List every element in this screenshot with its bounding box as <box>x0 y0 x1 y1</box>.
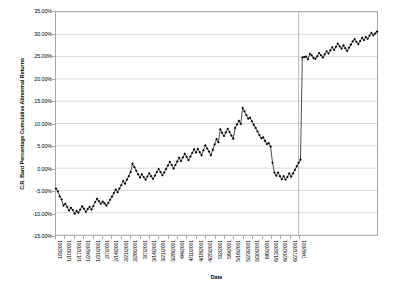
data-point-marker <box>271 161 274 164</box>
data-point-marker <box>127 175 130 178</box>
x-axis-tick-label: 4/25/2001 <box>207 240 213 262</box>
x-axis-tick-label: 3/28/2001 <box>170 240 176 262</box>
x-axis-tick-labels: 1/3/20011/10/20011/17/20011/24/20011/31/… <box>55 240 378 272</box>
series-markers <box>55 30 379 215</box>
data-point-marker <box>202 149 205 152</box>
x-axis-tick-label: 2/7/2001 <box>104 240 110 259</box>
x-axis-tick-mark <box>233 236 234 239</box>
x-axis-tick-mark <box>168 236 169 239</box>
data-point-marker <box>189 155 192 158</box>
data-point-marker <box>224 131 227 134</box>
data-point-marker <box>172 167 175 170</box>
y-axis-tick-label: -15.00% <box>0 233 52 239</box>
data-point-marker <box>176 160 179 163</box>
data-point-marker <box>245 114 248 117</box>
x-axis-tick-label: 5/30/2001 <box>254 240 260 262</box>
x-axis-tick-mark <box>130 236 131 239</box>
x-axis-tick-mark <box>102 236 103 239</box>
y-axis-tick-label: 30.00% <box>0 31 52 37</box>
data-point-marker <box>129 171 132 174</box>
plot-area <box>55 11 378 236</box>
x-axis-tick-mark <box>215 236 216 239</box>
data-series-line <box>56 12 377 235</box>
x-axis-tick-mark <box>140 236 141 239</box>
x-axis-tick-label: 6/6/2001 <box>264 240 270 259</box>
x-axis-tick-label: 5/23/2001 <box>245 240 251 262</box>
x-axis-tick-label: 4/18/2001 <box>198 240 204 262</box>
x-axis-tick-mark <box>280 236 281 239</box>
y-axis-tick-label: 25.00% <box>0 53 52 59</box>
x-axis-tick-label: 1/31/2001 <box>95 240 101 262</box>
data-point-marker <box>126 178 129 181</box>
x-axis-tick-mark <box>55 236 56 239</box>
x-axis-tick-label: 2/14/2001 <box>113 240 119 262</box>
x-axis-tick-mark <box>111 236 112 239</box>
y-axis-tick-label: 10.00% <box>0 121 52 127</box>
data-point-marker <box>92 205 95 208</box>
data-point-marker <box>113 192 116 195</box>
y-axis-tick-label: 0.00% <box>0 166 52 172</box>
data-point-marker <box>213 143 216 146</box>
data-point-marker <box>241 107 244 110</box>
x-axis-tick-mark <box>93 236 94 239</box>
x-axis-tick-mark <box>83 236 84 239</box>
data-point-marker <box>210 154 213 157</box>
data-point-marker <box>295 165 298 168</box>
x-axis-tick-label: 4/11/2001 <box>188 240 194 261</box>
x-axis-tick-label: 3/21/2001 <box>160 240 166 262</box>
x-axis-tick-label: 6/20/2001 <box>282 240 288 262</box>
data-point-marker <box>303 56 306 59</box>
y-axis-tick-label: -5.00% <box>0 188 52 194</box>
data-point-marker <box>167 164 170 167</box>
y-axis-tick-label: 35.00% <box>0 8 52 14</box>
x-axis-tick-label: 5/2/2001 <box>217 240 223 259</box>
chart-container: C.R. Bard Percentage Cumulative Abnormal… <box>0 0 394 293</box>
x-axis-tick-mark <box>290 236 291 239</box>
x-axis-tick-mark <box>158 236 159 239</box>
x-axis-tick-mark <box>299 236 300 239</box>
y-axis-tick-label: -10.00% <box>0 211 52 217</box>
x-axis-tick-mark <box>224 236 225 239</box>
x-axis-tick-mark <box>252 236 253 239</box>
x-axis-tick-mark <box>196 236 197 239</box>
series-polyline <box>56 32 377 214</box>
x-axis-tick-label: 1/3/2001 <box>57 240 63 259</box>
data-point-marker <box>135 169 138 172</box>
x-axis-tick-label: 2/28/2001 <box>132 240 138 262</box>
x-axis-tick-label: 1/10/2001 <box>66 240 72 262</box>
y-axis-tick-label: 5.00% <box>0 143 52 149</box>
x-axis-tick-mark <box>262 236 263 239</box>
x-axis-tick-mark <box>74 236 75 239</box>
data-point-marker <box>131 162 134 165</box>
x-axis-tick-mark <box>177 236 178 239</box>
x-axis-tick-mark <box>121 236 122 239</box>
x-axis-tick-label: 3/14/2001 <box>151 240 157 262</box>
data-point-marker <box>182 156 185 159</box>
data-point-marker <box>211 148 214 151</box>
y-axis-tick-label: 15.00% <box>0 98 52 104</box>
data-point-marker <box>219 128 222 131</box>
x-axis-tick-label: 7/4/2001 <box>301 240 307 259</box>
x-axis-tick-label: 6/13/2001 <box>273 240 279 262</box>
data-point-marker <box>243 110 246 113</box>
x-axis-tick-label: 4/4/2001 <box>179 240 185 259</box>
data-point-marker <box>251 120 254 123</box>
gridlines <box>56 12 377 235</box>
x-axis-tick-mark <box>186 236 187 239</box>
x-axis-tick-mark <box>271 236 272 239</box>
x-axis-tick-label: 5/9/2001 <box>226 240 232 259</box>
x-axis-tick-mark <box>64 236 65 239</box>
x-axis-title: Date <box>55 274 378 280</box>
data-point-marker <box>118 187 121 190</box>
data-point-marker <box>234 127 237 130</box>
x-axis-tick-label: 1/17/2001 <box>76 240 82 262</box>
y-axis-tick-labels: 35.00%30.00%25.00%20.00%15.00%10.00%5.00… <box>0 11 52 236</box>
data-point-marker <box>191 152 194 155</box>
x-axis-tick-mark <box>243 236 244 239</box>
x-axis-tick-label: 3/7/2001 <box>142 240 148 259</box>
data-point-marker <box>120 184 123 187</box>
x-axis-tick-label: 6/27/2001 <box>292 240 298 262</box>
x-axis-tick-mark <box>205 236 206 239</box>
x-axis-tick-mark <box>149 236 150 239</box>
x-axis-tick-label: 5/16/2001 <box>235 240 241 262</box>
